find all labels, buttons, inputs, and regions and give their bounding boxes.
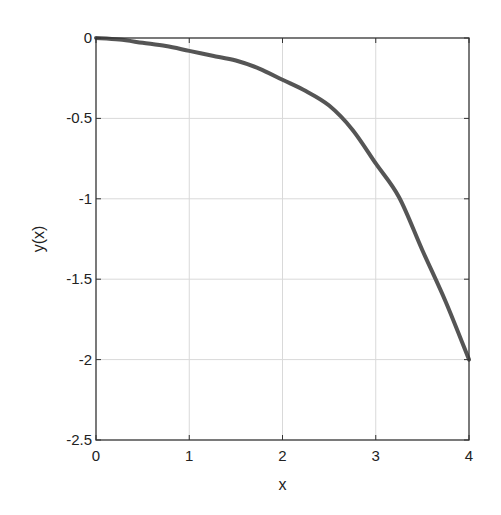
x-axis-tick-labels: 01234 (92, 447, 473, 464)
y-tick-label: -0.5 (66, 109, 92, 126)
y-tick-label: -2.5 (66, 431, 92, 448)
x-axis-label: x (279, 476, 287, 493)
x-tick-label: 3 (372, 447, 380, 464)
x-tick-label: 1 (185, 447, 193, 464)
y-tick-label: -2 (79, 351, 92, 368)
y-tick-label: -1.5 (66, 270, 92, 287)
x-tick-label: 4 (465, 447, 473, 464)
y-axis-tick-labels: 0-0.5-1-1.5-2-2.5 (66, 29, 92, 448)
grid-lines (96, 38, 469, 440)
y-axis-label: y(x) (30, 226, 47, 253)
x-tick-label: 0 (92, 447, 100, 464)
line-chart: 01234 0-0.5-1-1.5-2-2.5 x y(x) (0, 0, 501, 515)
y-tick-label: 0 (84, 29, 92, 46)
y-tick-label: -1 (79, 190, 92, 207)
x-tick-label: 2 (278, 447, 286, 464)
